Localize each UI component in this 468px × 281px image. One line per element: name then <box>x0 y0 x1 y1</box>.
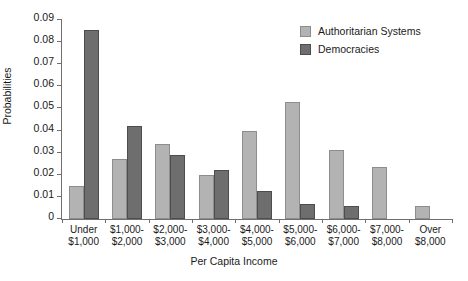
x-tick-mark <box>235 219 236 223</box>
bar <box>257 191 272 219</box>
x-label-line-2: $4,000 <box>192 236 235 248</box>
x-axis-tick-label: $1,000-$2,000 <box>105 224 148 247</box>
bar <box>84 30 99 219</box>
bar <box>372 167 387 219</box>
x-tick-mark <box>365 219 366 223</box>
bar <box>69 186 84 219</box>
y-axis-title: Probabilities <box>1 11 13 181</box>
x-tick-mark <box>409 219 410 223</box>
bar <box>155 144 170 219</box>
bar-group <box>149 20 192 219</box>
y-tick-label: 0 <box>48 211 54 222</box>
x-label-line-2: $3,000 <box>149 236 192 248</box>
x-label-line-2: $8,000 <box>365 236 408 248</box>
figure-bar-chart: Probabilities 00.010.020.030.040.050.060… <box>0 0 468 281</box>
x-axis-line <box>61 219 453 220</box>
x-label-line-1: $4,000- <box>240 224 274 235</box>
legend-item[interactable]: Democracies <box>300 42 421 56</box>
legend-swatch <box>300 44 311 55</box>
x-axis-tick-label: $6,000-$7,000 <box>322 224 365 247</box>
x-tick-mark <box>105 219 106 223</box>
bar <box>344 206 359 219</box>
x-axis-tick-label: $5,000-$6,000 <box>279 224 322 247</box>
x-axis-tick-label: $7,000-$8,000 <box>365 224 408 247</box>
bar <box>242 131 257 219</box>
x-label-line-2: $8,000 <box>409 236 452 248</box>
y-tick-label: 0.08 <box>34 34 54 45</box>
y-tick-label: 0.02 <box>34 167 54 178</box>
bar <box>127 126 142 219</box>
y-tick-label: 0.09 <box>34 12 54 23</box>
bar <box>112 159 127 219</box>
x-label-line-1: Over <box>419 224 441 235</box>
x-tick-mark <box>149 219 150 223</box>
x-label-line-1: $1,000- <box>110 224 144 235</box>
bar <box>170 155 185 219</box>
x-axis-tick-label: Over$8,000 <box>409 224 452 247</box>
legend-item[interactable]: Authoritarian Systems <box>300 24 421 38</box>
y-tick-label: 0.05 <box>34 100 54 111</box>
y-tick-label: 0.01 <box>34 189 54 200</box>
x-label-line-1: $5,000- <box>283 224 317 235</box>
legend-swatch <box>300 26 311 37</box>
x-label-line-1: $7,000- <box>370 224 404 235</box>
x-label-line-2: $5,000 <box>235 236 278 248</box>
bar <box>415 206 430 219</box>
x-label-line-1: Under <box>70 224 97 235</box>
bar-group <box>62 20 105 219</box>
bar-group <box>105 20 148 219</box>
bar <box>300 204 315 219</box>
x-label-line-2: $2,000 <box>105 236 148 248</box>
x-tick-mark <box>279 219 280 223</box>
legend-label: Authoritarian Systems <box>318 26 421 37</box>
x-label-line-1: $3,000- <box>197 224 231 235</box>
x-label-line-1: $2,000- <box>153 224 187 235</box>
x-tick-mark <box>452 219 453 223</box>
x-axis-tick-label: $4,000-$5,000 <box>235 224 278 247</box>
x-label-line-2: $1,000 <box>62 236 105 248</box>
bar-group <box>235 20 278 219</box>
x-axis-tick-label: Under$1,000 <box>62 224 105 247</box>
x-tick-mark <box>322 219 323 223</box>
y-tick-label: 0.03 <box>34 145 54 156</box>
legend-label: Democracies <box>318 44 379 55</box>
bar <box>214 170 229 219</box>
x-label-line-1: $6,000- <box>327 224 361 235</box>
x-tick-mark <box>192 219 193 223</box>
bar <box>329 150 344 219</box>
bar <box>199 175 214 219</box>
x-axis-tick-label: $2,000-$3,000 <box>149 224 192 247</box>
x-label-line-2: $6,000 <box>279 236 322 248</box>
bar <box>285 102 300 219</box>
y-tick-label: 0.06 <box>34 78 54 89</box>
x-label-line-2: $7,000 <box>322 236 365 248</box>
bar-group <box>192 20 235 219</box>
legend: Authoritarian SystemsDemocracies <box>300 24 421 60</box>
y-tick-label: 0.07 <box>34 56 54 67</box>
x-tick-mark <box>62 219 63 223</box>
y-tick-label: 0.04 <box>34 123 54 134</box>
x-axis-tick-label: $3,000-$4,000 <box>192 224 235 247</box>
x-axis-title: Per Capita Income <box>0 255 468 267</box>
